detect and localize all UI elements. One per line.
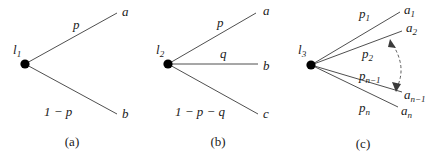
panel-c-prob-label-4: pn xyxy=(358,100,371,117)
panel-b-leaf-label-1: a xyxy=(263,3,270,18)
panel-b: l2 p q 1 − p − q a b c (b) xyxy=(156,3,270,149)
panel-c-leaf-label-2: a2 xyxy=(406,20,418,37)
panel-c-caption: (c) xyxy=(356,136,370,151)
panel-b-caption: (b) xyxy=(210,134,225,149)
panel-c-arc-arrowhead-top xyxy=(388,39,396,48)
panel-c-edge-2 xyxy=(311,31,402,65)
panel-a-prob-label-2: 1 − p xyxy=(44,104,73,119)
panel-b-prob-label-3: 1 − p − q xyxy=(175,104,226,119)
panel-c-leaf-label-4: an xyxy=(401,103,413,120)
panel-b-prob-label-2: q xyxy=(220,46,227,61)
panel-c-prob-label-1: p1 xyxy=(358,6,370,23)
panel-b-leaf-label-3: c xyxy=(263,106,269,121)
panel-a-leaf-label-1: a xyxy=(122,4,129,19)
panel-a: l1 p 1 − p a b (a) xyxy=(13,4,129,149)
panel-c-ellipsis-arc xyxy=(393,45,401,85)
panel-c-root-label: l3 xyxy=(298,42,307,59)
panel-c-leaf-label-1: a1 xyxy=(404,2,415,19)
panel-a-leaf-label-2: b xyxy=(122,106,129,121)
panel-c-prob-label-2: p2 xyxy=(361,46,374,63)
figure-canvas: l1 p 1 − p a b (a) l2 xyxy=(0,0,446,162)
panel-b-edge-1 xyxy=(168,13,256,64)
panel-a-prob-label-1: p xyxy=(72,17,80,32)
panel-c-edge-4 xyxy=(311,65,398,107)
panel-a-root-node xyxy=(20,59,29,68)
panel-c-edge-1 xyxy=(311,12,400,65)
panel-c: l3 p1 p2 pn−1 pn a1 a2 an xyxy=(298,2,426,151)
panel-c-edge-3 xyxy=(311,65,402,92)
panel-a-caption: (a) xyxy=(65,134,79,149)
panel-a-root-label: l1 xyxy=(13,42,21,59)
panel-b-leaf-label-2: b xyxy=(263,58,270,73)
panel-b-root-label: l2 xyxy=(156,42,165,59)
panel-b-root-node xyxy=(163,59,172,68)
panel-b-prob-label-1: p xyxy=(216,15,224,30)
panel-c-prob-label-3: pn−1 xyxy=(358,68,381,85)
panel-c-arc-arrowhead-bottom xyxy=(392,82,401,92)
panel-c-leaf-label-3: an−1 xyxy=(404,87,426,104)
panel-a-edge-1 xyxy=(25,13,117,64)
figure-probability-trees: l1 p 1 − p a b (a) l2 xyxy=(0,0,446,162)
panel-c-root-node xyxy=(306,60,315,69)
